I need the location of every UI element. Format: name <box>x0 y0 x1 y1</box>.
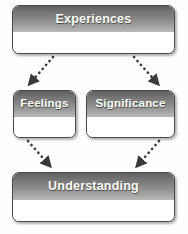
node-understanding-body <box>13 200 174 221</box>
node-understanding[interactable]: Understanding <box>12 172 175 222</box>
node-experiences-body <box>13 32 174 53</box>
node-experiences-header: Experiences <box>13 6 174 32</box>
arrow-experiences-to-feelings <box>30 57 54 84</box>
arrow-experiences-to-significance <box>134 57 158 84</box>
node-feelings[interactable]: Feelings <box>13 90 76 138</box>
arrow-significance-to-understanding <box>137 141 159 166</box>
node-understanding-label: Understanding <box>48 180 139 193</box>
node-experiences[interactable]: Experiences <box>12 5 175 54</box>
node-feelings-header: Feelings <box>14 91 75 117</box>
node-experiences-label: Experiences <box>56 13 132 26</box>
node-significance-header: Significance <box>87 91 174 117</box>
node-feelings-body <box>14 117 75 137</box>
node-understanding-header: Understanding <box>13 173 174 200</box>
node-significance-body <box>87 117 174 137</box>
diagram-canvas: Experiences Feelings Significance Unders… <box>0 0 188 234</box>
node-significance-label: Significance <box>95 98 165 110</box>
node-feelings-label: Feelings <box>20 98 68 110</box>
node-significance[interactable]: Significance <box>86 90 175 138</box>
arrow-feelings-to-understanding <box>28 141 50 166</box>
